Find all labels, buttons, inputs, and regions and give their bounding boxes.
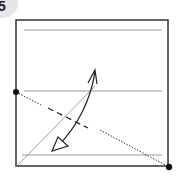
origami-step-diagram: 5 [0,0,179,178]
reference-point-bottom-right [166,164,172,170]
step-number: 5 [0,0,6,14]
step-badge: 5 [0,0,18,18]
reference-point-left-edge [13,89,19,95]
